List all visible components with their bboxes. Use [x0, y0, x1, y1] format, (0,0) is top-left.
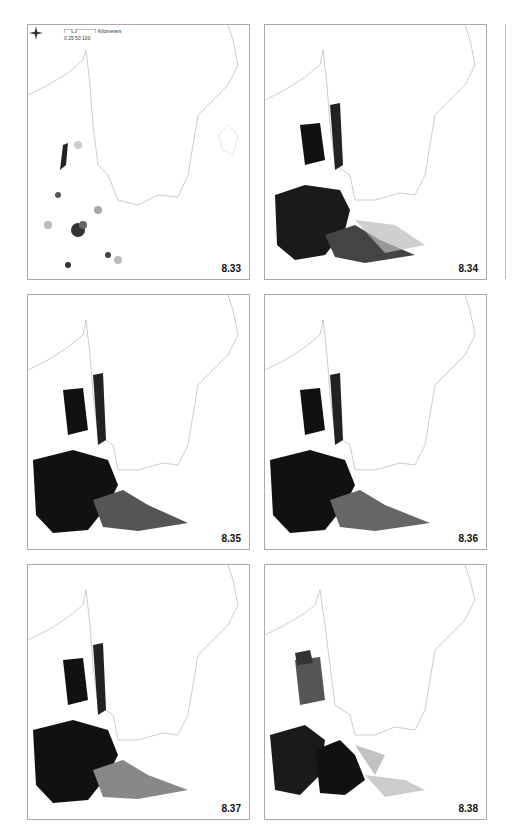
panel-label: 8.36 — [459, 533, 478, 544]
map-graphic — [28, 25, 249, 279]
panel-label: 8.33 — [222, 263, 241, 274]
map-panel-8-37: 8.37 — [27, 564, 250, 820]
scale-ticks: 0 25 50 100 — [64, 35, 90, 41]
map-graphic — [28, 565, 249, 819]
map-panel-8-36: 8.36 — [264, 294, 487, 550]
panel-label: 8.38 — [459, 803, 478, 814]
map-panel-8-35: 8.35 — [27, 294, 250, 550]
panel-label: 8.37 — [222, 803, 241, 814]
map-graphic — [265, 565, 486, 819]
panel-label: 8.34 — [459, 263, 478, 274]
map-graphic — [265, 25, 486, 279]
compass-icon — [28, 25, 44, 41]
margin-rule — [505, 24, 506, 279]
scale-unit: Kilometers — [98, 28, 122, 34]
panel-label: 8.35 — [222, 533, 241, 544]
map-graphic — [265, 295, 486, 549]
map-panel-8-34: 8.34 — [264, 24, 487, 280]
map-panel-8-33: 0 25 50 100 Kilometers 8.33 — [27, 24, 250, 280]
map-graphic — [28, 295, 249, 549]
map-panel-8-38: 8.38 — [264, 564, 487, 820]
